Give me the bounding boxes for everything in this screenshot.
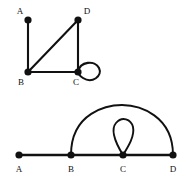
- bottom-vertex-a: [15, 151, 22, 158]
- top-label-c: C: [73, 77, 79, 87]
- graph-figure: A B C D A B C D: [0, 0, 195, 185]
- bottom-label-c: C: [120, 164, 126, 174]
- top-label-b: B: [18, 77, 24, 87]
- bottom-label-a: A: [16, 164, 23, 174]
- bottom-vertex-c: [119, 151, 126, 158]
- bottom-vertex-b: [67, 151, 74, 158]
- top-vertex-a: [24, 16, 31, 23]
- top-vertex-b: [24, 68, 31, 75]
- top-vertex-d: [74, 16, 81, 23]
- top-label-d: D: [84, 6, 91, 16]
- bottom-label-b: B: [68, 164, 74, 174]
- bottom-vertex-d: [169, 151, 176, 158]
- top-label-a: A: [17, 6, 24, 16]
- top-vertex-c: [74, 68, 81, 75]
- bottom-label-d: D: [170, 164, 177, 174]
- figure-background: [0, 0, 195, 185]
